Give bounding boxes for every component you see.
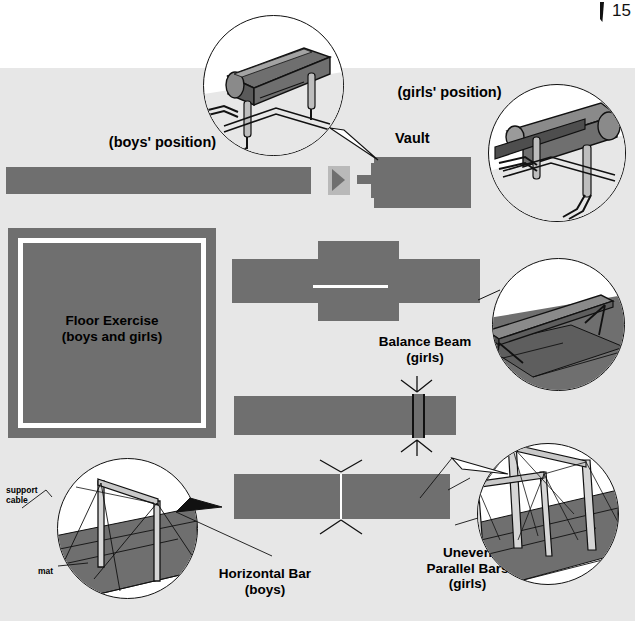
floor-exercise-label: Floor Exercise (boys and girls) — [18, 313, 206, 344]
vault-landing-mat — [374, 157, 471, 208]
support-cable-line2: cable — [6, 496, 64, 506]
horizontal-bar-inset — [57, 458, 198, 599]
balance-beam-label-line1: Balance Beam — [355, 334, 495, 350]
floor-exercise-label-line2: (boys and girls) — [18, 329, 206, 345]
vault-connector-dash — [357, 175, 371, 184]
balance-beam-label: Balance Beam (girls) — [355, 334, 495, 365]
vault-runway — [6, 167, 311, 194]
vault-boys-inset — [203, 15, 344, 156]
mat-annotation: mat — [38, 567, 53, 577]
horizontal-bar-upright — [412, 394, 425, 438]
label-girls-position: (girls' position) — [382, 84, 517, 101]
balance-beam-label-line2: (girls) — [355, 350, 495, 366]
support-cable-annotation: support cable — [6, 486, 64, 506]
balance-beam-inset — [492, 258, 625, 391]
horizontal-bar-label-line1: Horizontal Bar — [185, 566, 345, 582]
balance-beam-mat-vertical — [318, 241, 399, 321]
figure-page: 15 (boys' position) (girls' position) Va… — [0, 0, 635, 621]
label-boys-position: (boys' position) — [100, 134, 225, 151]
vault-girls-inset — [488, 84, 626, 222]
uneven-bars-label-line3: (girls) — [400, 576, 535, 592]
uneven-bars-center-line — [340, 474, 342, 519]
page-number: 15 — [612, 2, 631, 19]
floor-exercise-label-line1: Floor Exercise — [18, 313, 206, 329]
horizontal-bar-label-line2: (boys) — [185, 582, 345, 598]
uneven-bars-mat — [234, 474, 450, 519]
uneven-bars-inset — [477, 443, 619, 585]
label-vault: Vault — [395, 130, 475, 147]
horizontal-bar-label: Horizontal Bar (boys) — [185, 566, 345, 597]
balance-beam-bar — [313, 285, 388, 288]
page-tick-mark — [600, 2, 604, 22]
